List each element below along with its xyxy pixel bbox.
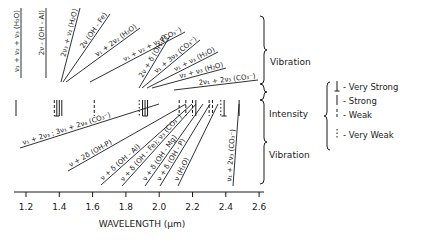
brace-vibration-bottom [260,100,267,184]
legend-item-very-weak: - Very Weak [337,129,394,140]
x-axis: 1.21.41.61.82.02.22.42.6WAVELENGTH (μm) [14,192,267,229]
legend-item-strong: - Strong [337,95,377,106]
x-axis-title: WAVELENGTH (μm) [99,219,186,229]
legend-item-very-strong: - Very Strong [335,81,399,92]
axis-tick-label: 2.0 [152,202,167,212]
legend-label: - Very Strong [343,82,398,92]
lower-vibration-labels: ν₁ + 2ν₃ ; 3ν₁ + 2ν₄ (CO₃⁻)ν + 2δ (OH-P)… [20,104,239,186]
axis-tick-label: 1.8 [119,202,134,212]
intensity-mark-very-strong [222,100,227,116]
legend-item-weak: - Weak [337,109,372,120]
legend-label: - Strong [343,96,377,106]
intensity-mark-very-strong [54,100,59,116]
axis-tick-label: 1.2 [19,202,33,212]
legend-label: - Very Weak [343,130,394,140]
label-vibration-bottom: Vibration [269,150,310,160]
axis-tick-label: 2.2 [185,202,199,212]
label-vibration-top: Vibration [270,57,311,67]
axis-tick-label: 2.4 [219,202,234,212]
axis-tick-label: 1.6 [85,202,100,212]
side-braces: Vibration Intensity Vibration [260,16,330,184]
legend-label: - Weak [343,110,372,120]
intensity-legend: - Very Strong- Strong- Weak- Very Weak [335,81,399,140]
brace-intensity [260,84,267,100]
brace-vibration-top [260,16,267,84]
intensity-mark-very-strong [335,81,340,91]
label-intensity: Intensity [269,109,309,119]
upper-vibration-labels: ν₁ + ν₂ + ν₃ (H₂O)2ν - (OH - Al)2ν₃ + ν₂… [13,8,258,90]
spectral-diagram: 1.21.41.61.82.02.22.42.6WAVELENGTH (μm) … [0,0,422,246]
axis-tick-label: 2.6 [252,202,267,212]
vibration-label: 2ν - (OH - Al) [38,10,46,56]
vibration-label: ν₁ + 2ν₃ ; 3ν₁ + 2ν₄ (CO₃⁻) [21,111,112,147]
upper-label: 2ν - (OH - Al) [38,8,46,78]
upper-label: ν₁ + ν₂ + ν₃ (H₂O) [13,8,21,78]
legend-brace [324,82,330,150]
lower-label: ν₁ + 2ν₃ ; 3ν₁ + 2ν₄ (CO₃⁻) [20,104,159,148]
vibration-label: ν + 2δ (OH-P) [68,138,114,169]
lower-label: ν₁ + 2ν₃ (CO₃⁻) [225,104,239,186]
vibration-label: 2ν₁ + 2ν₃ (CO₃⁻) [198,72,256,87]
vibration-label: ν₁ + ν₂ + ν₃ (H₂O) [13,10,21,72]
upper-label: 2ν₃ + ν₂ (H₂O) [59,8,80,82]
axis-tick-label: 1.4 [52,202,67,212]
